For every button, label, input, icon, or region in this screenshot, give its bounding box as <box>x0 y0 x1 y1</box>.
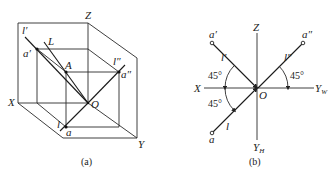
label-x: X <box>7 96 16 108</box>
label-l-double-prime: l″ <box>284 51 292 63</box>
line-l-prime <box>25 37 88 103</box>
line-l-double-prime <box>258 44 302 88</box>
label-yh: YH <box>253 141 265 155</box>
label-l-prime: l′ <box>22 24 28 36</box>
point-a-prime <box>210 41 214 45</box>
point-O <box>87 102 89 104</box>
figure-a-isometric-box: Z X Y O L A l′ l″ l a′ a″ a (a) <box>7 9 146 168</box>
label-l-prime: l′ <box>221 51 227 63</box>
label-L: L <box>47 35 54 47</box>
line-l <box>213 89 256 132</box>
label-z: Z <box>85 9 92 21</box>
angle-arc-lower-left <box>225 88 234 111</box>
label-a: a <box>209 133 215 145</box>
label-a-double-prime: a″ <box>302 28 313 40</box>
angle-label-lower-left: 45° <box>208 98 222 109</box>
label-A: A <box>64 59 72 71</box>
label-l: l <box>57 118 60 130</box>
label-a: a <box>66 126 72 138</box>
point-a-double-prime <box>301 41 305 45</box>
label-l-double-prime: l″ <box>113 55 121 67</box>
caption-b: (b) <box>249 156 261 168</box>
point-a-prime <box>35 47 38 50</box>
figure-b-orthographic: Z X YW YH O a′ a″ a l′ l″ l 45° 45° 45° … <box>193 21 328 168</box>
angle-arc-right <box>279 66 288 88</box>
angle-label-right: 45° <box>290 70 304 81</box>
label-yw: YW <box>315 82 328 96</box>
inner-box-top <box>37 49 119 127</box>
label-a-prime: a′ <box>209 28 218 40</box>
label-a-double-prime: a″ <box>121 68 132 80</box>
label-o: O <box>91 98 99 110</box>
angle-label-upper-left: 45° <box>208 70 222 81</box>
label-x: X <box>193 82 202 94</box>
label-a-prime: a′ <box>23 47 32 59</box>
projection-diagram: Z X Y O L A l′ l″ l a′ a″ a (a) Z X YW Y… <box>0 0 331 183</box>
label-o: O <box>259 89 267 101</box>
caption-a: (a) <box>81 156 92 168</box>
label-l: l <box>226 120 229 132</box>
angle-arc-upper-left <box>225 65 234 88</box>
label-y: Y <box>138 138 146 150</box>
inner-box-bottom-left <box>37 103 66 127</box>
label-z: Z <box>253 21 260 33</box>
